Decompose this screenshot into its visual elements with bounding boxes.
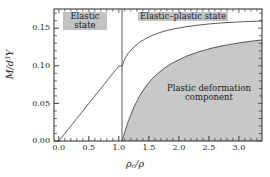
y-tick-label-2: 0.10 — [16, 61, 50, 70]
x-tick-label-3: 1.5 — [135, 143, 163, 152]
x-axis-title-tail: /ρ — [135, 158, 144, 169]
y-axis-title-post: Y — [4, 50, 15, 56]
y-tick-label-0: 0.00 — [16, 136, 50, 145]
x-tick-label-5: 2.5 — [195, 143, 223, 152]
y-tick-label-1: 0.05 — [16, 99, 50, 108]
figure-container: 0.0 0.5 1.0 1.5 2.0 2.5 3.0 0.00 0.05 0.… — [0, 0, 270, 177]
x-tick-label-6: 3.0 — [225, 143, 253, 152]
x-axis-title: ρc/ρ — [0, 158, 270, 170]
y-axis-title: M/d3Y — [4, 25, 15, 105]
x-tick-label-1: 0.5 — [75, 143, 103, 152]
y-tick-label-3: 0.15 — [16, 23, 50, 32]
x-tick-label-4: 2.0 — [165, 143, 193, 152]
y-axis-title-pre: M/d — [4, 60, 15, 79]
y-axis-title-superscript: 3 — [4, 56, 12, 60]
x-tick-label-2: 1.0 — [105, 143, 133, 152]
